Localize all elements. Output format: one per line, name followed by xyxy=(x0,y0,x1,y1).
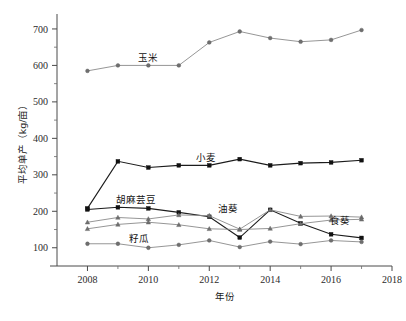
y-tick-label: 300 xyxy=(33,169,48,180)
data-point-marker xyxy=(177,243,181,247)
series-label-4: 食葵 xyxy=(330,215,350,226)
data-point-marker xyxy=(360,28,364,32)
data-point-marker xyxy=(207,239,211,243)
data-point-marker xyxy=(238,157,242,161)
data-point-marker xyxy=(146,206,150,210)
data-point-marker xyxy=(329,232,333,236)
data-point-marker xyxy=(329,38,333,42)
data-point-marker xyxy=(146,64,150,68)
data-point-marker xyxy=(177,64,181,68)
x-tick-label: 2016 xyxy=(321,274,341,285)
data-point-marker xyxy=(268,36,272,40)
series-label-group: 玉米小麦胡麻芸豆油葵食葵籽瓜 xyxy=(116,52,350,244)
data-point-marker xyxy=(86,242,90,246)
series-line xyxy=(87,219,361,229)
x-tick-label: 2014 xyxy=(260,274,280,285)
series-line xyxy=(87,30,361,71)
series-group xyxy=(85,28,363,250)
data-point-marker xyxy=(116,64,120,68)
y-tick-label: 600 xyxy=(33,60,48,71)
x-tick-label: 2010 xyxy=(138,274,158,285)
data-point-marker xyxy=(207,163,211,167)
y-tick-label: 200 xyxy=(33,206,48,217)
x-axis-title: 年份 xyxy=(215,291,235,302)
x-tick-label: 2012 xyxy=(199,274,219,285)
data-point-marker xyxy=(146,246,150,250)
series-label-1: 小麦 xyxy=(196,152,216,163)
data-point-marker xyxy=(360,158,364,162)
data-point-marker xyxy=(268,163,272,167)
x-tick-label: 2018 xyxy=(382,274,402,285)
data-point-marker xyxy=(116,242,120,246)
data-point-marker xyxy=(360,240,364,244)
data-point-marker xyxy=(268,240,272,244)
y-axis-title: 平均单产（kg/亩） xyxy=(17,100,28,185)
data-point-marker xyxy=(299,161,303,165)
data-point-marker xyxy=(329,161,333,165)
data-point-marker xyxy=(177,163,181,167)
data-point-marker xyxy=(360,236,364,240)
x-tick-label: 2008 xyxy=(77,274,97,285)
y-tick-label: 400 xyxy=(33,133,48,144)
data-point-marker xyxy=(238,236,242,240)
data-point-marker xyxy=(238,245,242,249)
data-point-marker xyxy=(86,69,90,73)
y-tick-label: 100 xyxy=(33,242,48,253)
chart-figure: 1002003004005006007002008201020122014201… xyxy=(0,0,406,321)
data-point-marker xyxy=(86,208,90,212)
data-point-marker xyxy=(207,41,211,45)
series-label-3: 油葵 xyxy=(218,203,238,214)
y-tick-label: 500 xyxy=(33,96,48,107)
series-label-0: 玉米 xyxy=(138,52,158,63)
data-point-marker xyxy=(146,166,150,170)
data-point-marker xyxy=(299,242,303,246)
y-tick-label: 700 xyxy=(33,24,48,35)
series-label-5: 籽瓜 xyxy=(129,233,149,244)
series-5 xyxy=(86,239,364,250)
data-point-marker xyxy=(329,239,333,243)
series-0 xyxy=(86,28,364,73)
data-point-marker xyxy=(116,159,120,163)
series-4 xyxy=(85,217,363,231)
data-point-marker xyxy=(299,40,303,44)
line-chart-canvas: 1002003004005006007002008201020122014201… xyxy=(0,0,406,321)
series-label-2: 胡麻芸豆 xyxy=(116,194,156,205)
data-point-marker xyxy=(238,30,242,34)
data-point-marker xyxy=(116,205,120,209)
